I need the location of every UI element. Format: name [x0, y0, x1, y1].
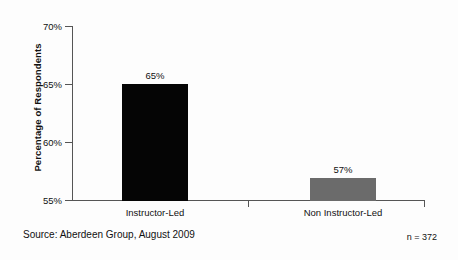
y-tick-mark-55 — [65, 200, 72, 201]
y-tick-label-60: 60% — [0, 137, 62, 148]
y-tick-mark-60 — [65, 142, 72, 143]
y-tick-label-70: 70% — [0, 21, 62, 32]
bar-value-non-instructor-led: 57% — [333, 164, 352, 175]
bar-instructor-led — [122, 84, 188, 201]
sample-size-note: n = 372 — [407, 232, 437, 242]
y-tick-mark-70 — [65, 26, 72, 27]
plot-area — [72, 26, 425, 201]
bar-value-instructor-led: 65% — [145, 70, 164, 81]
source-note: Source: Aberdeen Group, August 2009 — [23, 229, 195, 240]
category-label-non-instructor-led: Non Instructor-Led — [304, 207, 383, 218]
bar-non-instructor-led — [310, 178, 376, 201]
y-axis-title: Percentage of Respondents — [32, 18, 43, 198]
x-tick-mark-end — [424, 200, 425, 207]
y-tick-mark-65 — [65, 84, 72, 85]
category-label-instructor-led: Instructor-Led — [126, 207, 185, 218]
bar-chart: Percentage of Respondents 70% 65% 60% 55… — [0, 0, 458, 260]
y-tick-label-65: 65% — [0, 79, 62, 90]
x-tick-mark-mid — [248, 200, 249, 207]
y-tick-label-55: 55% — [0, 195, 62, 206]
